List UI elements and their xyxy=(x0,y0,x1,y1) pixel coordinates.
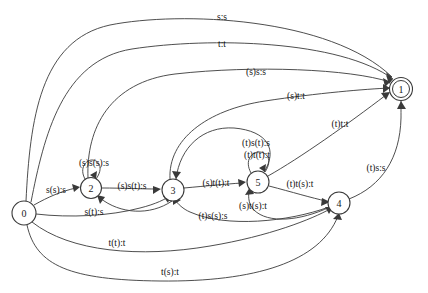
edge-label-3-5-tt: (s)t(t):t xyxy=(203,178,230,189)
edge-label-layer: s:s t:t (s)s:s (s)t:t (t)t:t (t)s:s (t)s… xyxy=(46,12,386,278)
state-node-0[interactable]: 0 xyxy=(12,201,36,225)
edge-0-4-tt xyxy=(32,209,330,252)
state-node-4[interactable]: 4 xyxy=(328,192,350,214)
state-node-1[interactable]: 1 xyxy=(390,78,413,101)
edge-label-0-1-ss: s:s xyxy=(217,12,227,22)
edge-label-5-3-st: (t)s(t):s xyxy=(242,138,270,149)
arrowhead-5-3-st xyxy=(172,171,181,179)
state-3-label: 3 xyxy=(171,185,176,196)
state-node-3[interactable]: 3 xyxy=(162,179,184,201)
edge-label-4-5-ts: (s)t(s):t xyxy=(239,201,267,212)
state-node-2[interactable]: 2 xyxy=(81,178,102,199)
edge-3-1-tt xyxy=(170,88,390,179)
arrowhead-3-5-tt xyxy=(238,179,246,187)
edge-label-2-1-ss: (s)s:s xyxy=(246,67,266,78)
fsm-diagram: 0 1 2 3 4 xyxy=(0,0,428,293)
state-2-label: 2 xyxy=(89,183,94,194)
edge-0-1-ss xyxy=(26,19,392,201)
node-layer: 0 1 2 3 4 xyxy=(12,78,413,226)
state-0-label: 0 xyxy=(22,208,27,219)
arrowhead-5-1-tt xyxy=(381,92,390,100)
state-4-label: 4 xyxy=(337,198,342,209)
arrowhead-0-2-ss xyxy=(72,184,80,192)
edge-layer xyxy=(26,19,406,281)
edge-label-3-1-tt: (s)t:t xyxy=(287,91,305,102)
edge-label-5-5-selfloop: (t)t(t):t xyxy=(244,150,270,161)
edge-label-5-4-ts: (t)t(s):t xyxy=(287,179,314,190)
edge-label-0-4-tt: t(t):t xyxy=(109,238,126,249)
state-1-label: 1 xyxy=(399,84,404,95)
edge-label-0-2-st: s(t):s xyxy=(85,207,104,218)
edge-label-2-3-st: (s)s(t):s xyxy=(117,181,146,192)
fsm-canvas: 0 1 2 3 4 xyxy=(0,0,428,293)
edge-label-0-1-tt: t:t xyxy=(218,39,226,49)
edge-label-4-3-ss: (t)s(s):s xyxy=(198,211,227,222)
edge-4-1-ss xyxy=(349,101,401,199)
edge-label-0-4-ts: t(s):t xyxy=(161,267,179,278)
arrowhead-4-1-ss xyxy=(397,101,406,109)
edge-label-2-2-selfloop: (s)s(s):s xyxy=(79,158,109,169)
edge-label-5-1-tt: (t)t:t xyxy=(332,119,349,130)
state-node-5[interactable]: 5 xyxy=(247,171,269,193)
state-5-label: 5 xyxy=(256,177,261,188)
arrowhead-2-3-st xyxy=(153,186,161,194)
edge-label-0-2-ss: s(s):s xyxy=(46,185,66,196)
edge-label-4-1-ss: (t)s:s xyxy=(367,163,386,174)
